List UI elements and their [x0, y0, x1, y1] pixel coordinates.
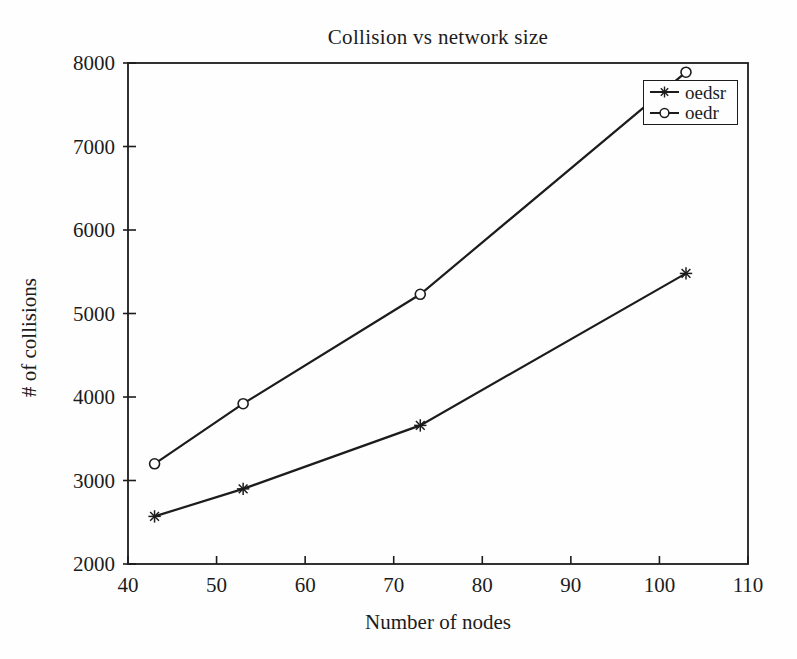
y-axis-label: # of collisions — [17, 208, 42, 468]
series-line-oedsr — [155, 273, 686, 516]
x-tick-label: 60 — [295, 573, 316, 597]
y-tick-label: 3000 — [73, 469, 115, 493]
axes-box — [128, 63, 748, 564]
x-tick-label: 100 — [644, 573, 676, 597]
y-tick-label: 2000 — [73, 552, 115, 576]
x-tick-label: 90 — [560, 573, 581, 597]
asterisk-marker — [414, 419, 426, 431]
legend: oedsr oedr — [643, 80, 738, 125]
y-tick-label: 6000 — [73, 218, 115, 242]
legend-label-oedsr: oedsr — [685, 83, 726, 102]
series-line-oedr — [155, 72, 686, 464]
legend-item-oedr: oedr — [649, 103, 733, 122]
asterisk-marker — [680, 267, 692, 279]
x-tick-label: 70 — [383, 573, 404, 597]
chart-title: Collision vs network size — [128, 25, 748, 50]
asterisk-marker — [237, 483, 249, 495]
circle-marker — [681, 67, 691, 77]
legend-item-oedsr: oedsr — [649, 83, 733, 102]
legend-label-oedr: oedr — [685, 103, 719, 122]
y-tick-label: 8000 — [73, 51, 115, 75]
figure: Collision vs network size # of collision… — [0, 0, 797, 659]
circle-marker — [150, 459, 160, 469]
x-tick-label: 40 — [118, 573, 139, 597]
circle-marker — [415, 289, 425, 299]
x-axis-label: Number of nodes — [128, 610, 748, 635]
y-tick-label: 5000 — [73, 302, 115, 326]
x-tick-label: 110 — [733, 573, 764, 597]
y-tick-label: 7000 — [73, 135, 115, 159]
x-tick-label: 50 — [206, 573, 227, 597]
y-tick-label: 4000 — [73, 385, 115, 409]
circle-marker-icon — [649, 106, 680, 120]
asterisk-marker-icon — [649, 85, 680, 99]
x-tick-label: 80 — [472, 573, 493, 597]
asterisk-marker — [148, 510, 160, 522]
circle-marker — [238, 399, 248, 409]
